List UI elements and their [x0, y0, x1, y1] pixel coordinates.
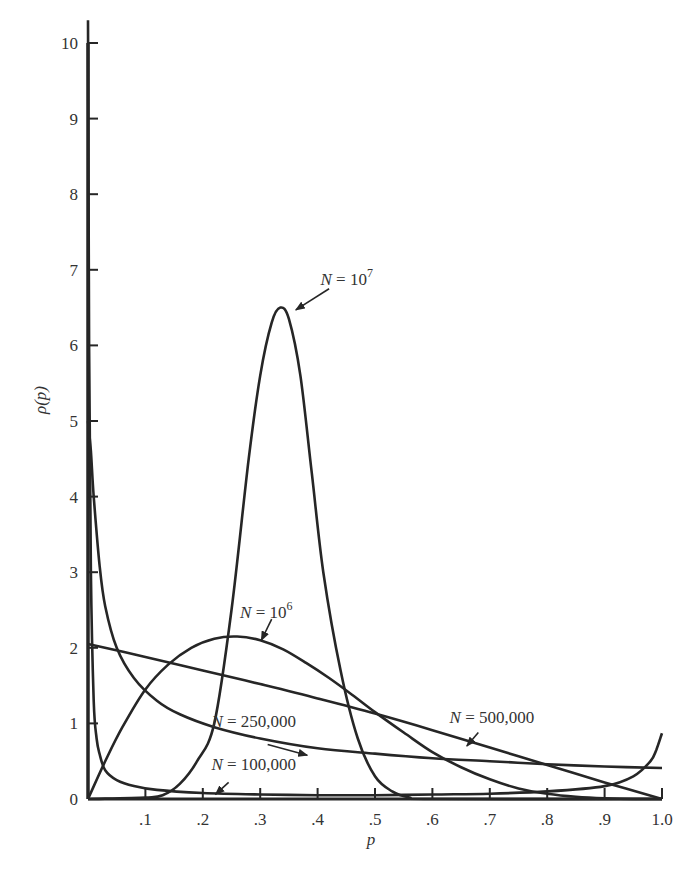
curve-labels: N = 107N = 106N = 500,000N = 250,000N = … — [210, 266, 534, 795]
curve-n-250-000 — [88, 421, 662, 768]
x-tick-label: .9 — [598, 810, 611, 829]
label-n-250-000: N = 250,000 — [210, 712, 296, 731]
y-tick-label: 7 — [70, 261, 79, 280]
x-tick-label: .4 — [311, 810, 324, 829]
y-axis-title: ρ(p) — [31, 386, 50, 415]
axes: 012345678910.1.2.3.4.5.6.7.8.91.0 — [61, 34, 673, 829]
curve-n-10-7 — [88, 307, 662, 799]
arrow-n-10-7 — [296, 289, 329, 310]
y-tick-label: 6 — [70, 336, 79, 355]
curve-n-100-000 — [88, 20, 662, 795]
x-tick-label: .6 — [426, 810, 439, 829]
y-tick-label: 2 — [70, 639, 79, 658]
x-tick-label: .7 — [483, 810, 496, 829]
x-tick-label: .3 — [254, 810, 267, 829]
label-n-500-000: N = 500,000 — [449, 708, 535, 727]
y-tick-label: 10 — [61, 34, 78, 53]
label-n-10-7: N = 107 — [319, 266, 372, 289]
curves — [88, 20, 662, 799]
y-tick-label: 8 — [70, 185, 79, 204]
x-axis-title: p — [366, 830, 376, 849]
y-tick-label: 0 — [70, 790, 79, 809]
y-tick-label: 3 — [70, 563, 79, 582]
arrow-n-10-6 — [261, 619, 271, 640]
y-tick-label: 5 — [70, 412, 79, 431]
chart: 012345678910.1.2.3.4.5.6.7.8.91.0 N = 10… — [0, 0, 695, 874]
x-tick-label: .8 — [541, 810, 554, 829]
x-tick-label: .5 — [369, 810, 382, 829]
x-tick-label: .1 — [139, 810, 152, 829]
y-tick-label: 1 — [70, 714, 79, 733]
y-tick-label: 4 — [70, 488, 79, 507]
x-tick-label: 1.0 — [651, 810, 672, 829]
label-n-10-6: N = 106 — [239, 599, 292, 622]
label-n-100-000: N = 100,000 — [210, 755, 296, 774]
x-tick-label: .2 — [196, 810, 209, 829]
y-tick-label: 9 — [70, 110, 79, 129]
